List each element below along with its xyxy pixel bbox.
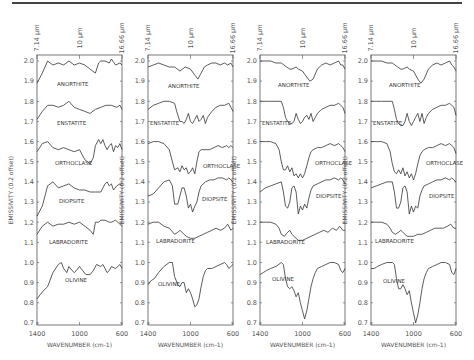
y-tick-label: 1.8: [24, 98, 34, 106]
y-tick-label: 1.0: [24, 259, 34, 267]
spectrum-curve-labradorite: [37, 220, 122, 234]
y-tick-label: 1.2: [358, 219, 368, 227]
y-tick-label: 1.8: [135, 98, 145, 106]
y-tick-label: 1.7: [247, 118, 257, 126]
wavelength-label: 10 μm: [299, 28, 307, 49]
y-axis-title: EMISSIVITY (0.2 offset): [341, 156, 348, 224]
y-tick-label: 0.7: [358, 319, 368, 327]
mineral-label: ENSTATITE: [150, 120, 180, 126]
y-tick-label: 1.5: [135, 158, 145, 166]
y-tick-label: 1.2: [24, 219, 34, 227]
y-tick-label: 1.6: [135, 138, 145, 146]
y-tick-label: 0.8: [24, 299, 34, 307]
wavelength-label: 16.66 μm: [452, 22, 460, 53]
y-axis-title: EMISSIVITY (0.2 offset): [230, 156, 237, 224]
y-tick-label: 0.8: [247, 299, 257, 307]
y-tick-label: 1.5: [247, 158, 257, 166]
wavelength-label: 10 μm: [76, 28, 84, 49]
spectrum-curve-labradorite: [148, 222, 233, 238]
y-tick-label: 1.0: [135, 259, 145, 267]
y-tick-label: 1.4: [358, 178, 368, 186]
y-tick-label: 1.5: [358, 158, 368, 166]
y-tick-label: 0.8: [358, 299, 368, 307]
mineral-label: LABRADORITE: [49, 239, 88, 245]
spectrum-curve-labradorite: [260, 222, 345, 240]
y-tick-label: 1.9: [24, 77, 34, 85]
spectrum-curve-labradorite: [371, 222, 456, 236]
y-tick-label: 1.3: [24, 198, 34, 206]
y-tick-label: 1.1: [135, 239, 145, 247]
y-tick-label: 1.2: [135, 219, 145, 227]
mineral-label: ORTHOCLASE: [426, 160, 464, 166]
plot-frame: [371, 55, 456, 325]
y-tick-label: 1.9: [135, 77, 145, 85]
y-tick-label: 2.0: [358, 57, 368, 65]
x-tick-label: 1400: [363, 330, 380, 338]
y-tick-label: 0.9: [358, 279, 368, 287]
x-axis-title: WAVENUMBER (cm-1): [381, 341, 446, 348]
spectrum-curve-olivine: [371, 263, 456, 323]
spectrum-curve-anorthite: [148, 63, 233, 79]
y-tick-label: 1.7: [358, 118, 368, 126]
y-tick-label: 1.1: [24, 239, 34, 247]
y-axis-title: EMISSIVITY (0.2 offset): [7, 156, 14, 224]
y-tick-label: 2.0: [247, 57, 257, 65]
mineral-label: ANORTHITE: [278, 82, 310, 88]
wavelength-label: 7.14 μm: [144, 24, 152, 51]
y-tick-label: 1.1: [358, 239, 368, 247]
y-tick-label: 1.4: [135, 178, 145, 186]
wavelength-label: 7.14 μm: [367, 24, 375, 51]
mineral-label: LABRADORITE: [375, 238, 414, 244]
y-tick-label: 2.0: [24, 57, 34, 65]
mineral-label: DIOPSITE: [59, 198, 85, 204]
x-tick-label: 600: [339, 330, 351, 338]
mineral-label: OLIVINE: [65, 277, 88, 283]
y-tick-label: 0.7: [247, 319, 257, 327]
mineral-label: ANORTHITE: [57, 81, 89, 87]
mineral-label: DIOPSITE: [202, 196, 228, 202]
mineral-label: ENSTATITE: [373, 120, 403, 126]
spectrum-curve-enstatite: [37, 101, 122, 119]
y-tick-label: 1.8: [358, 98, 368, 106]
x-axis-title: WAVENUMBER (cm-1): [158, 341, 223, 348]
x-tick-label: 1400: [140, 330, 157, 338]
spectrum-curve-anorthite: [371, 61, 456, 83]
y-tick-label: 2.0: [135, 57, 145, 65]
y-tick-label: 0.8: [135, 299, 145, 307]
y-tick-label: 1.9: [247, 77, 257, 85]
x-tick-label: 600: [227, 330, 239, 338]
y-tick-label: 0.9: [24, 279, 34, 287]
x-tick-label: 600: [116, 330, 128, 338]
mineral-label: LABRADORITE: [266, 239, 305, 245]
y-tick-label: 1.5: [24, 158, 34, 166]
x-tick-label: 1000: [405, 330, 422, 338]
wavelength-label: 16.66 μm: [229, 22, 237, 53]
y-tick-label: 0.9: [247, 279, 257, 287]
y-tick-label: 0.7: [135, 319, 145, 327]
x-tick-label: 1000: [182, 330, 199, 338]
mineral-label: DIOPSITE: [316, 193, 342, 199]
wavelength-label: 7.14 μm: [256, 24, 264, 51]
y-tick-label: 1.8: [247, 98, 257, 106]
wavelength-label: 10 μm: [187, 28, 195, 49]
wavelength-label: 16.66 μm: [341, 22, 349, 53]
wavelength-label: 7.14 μm: [33, 24, 41, 51]
mineral-label: ANORTHITE: [389, 82, 421, 88]
wavelength-label: 10 μm: [410, 28, 418, 49]
y-tick-label: 1.6: [358, 138, 368, 146]
y-tick-label: 1.2: [247, 219, 257, 227]
spectrum-curve-diopsite: [148, 178, 233, 212]
y-tick-label: 1.6: [247, 138, 257, 146]
x-axis-title: WAVENUMBER (cm-1): [47, 341, 112, 348]
y-tick-label: 1.3: [135, 198, 145, 206]
y-tick-label: 1.3: [247, 198, 257, 206]
x-tick-label: 1000: [71, 330, 88, 338]
mineral-label: ORTHOCLASE: [55, 160, 93, 166]
y-tick-label: 1.0: [358, 259, 368, 267]
emissivity-figure: 2.01.91.81.71.61.51.41.31.21.11.00.90.80…: [0, 0, 474, 360]
x-tick-label: 600: [450, 330, 462, 338]
y-tick-label: 1.3: [358, 198, 368, 206]
y-tick-label: 1.4: [247, 178, 257, 186]
y-tick-label: 1.4: [24, 178, 34, 186]
mineral-label: ANORTHITE: [168, 83, 200, 89]
